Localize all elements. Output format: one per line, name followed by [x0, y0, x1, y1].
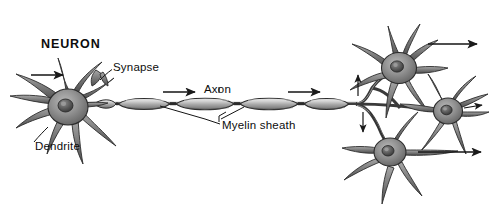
label-axon: Axon	[204, 84, 231, 96]
node-of-ranvier	[298, 102, 304, 105]
label-dendrite: Dendrite	[35, 141, 80, 153]
node-of-ranvier	[234, 102, 240, 105]
label-synapse: Synapse	[113, 62, 159, 74]
nucleolus	[443, 107, 447, 110]
nucleolus	[61, 102, 66, 106]
nucleolus	[384, 148, 388, 152]
nucleus	[58, 99, 73, 112]
page-title: NEURON	[41, 38, 101, 51]
nucleus	[391, 61, 404, 72]
nucleolus	[393, 63, 397, 67]
myelin-segments	[94, 98, 349, 109]
neuron-diagram-canvas	[0, 0, 491, 214]
node-of-ranvier	[170, 102, 176, 105]
neuron-diagram-figure: NEURON Synapse Dendrite Axon Myelin shea…	[0, 0, 491, 214]
label-myelin-sheath: Myelin sheath	[222, 120, 296, 132]
node-of-ranvier	[116, 102, 119, 105]
nucleus	[382, 146, 394, 156]
axon-group	[86, 98, 358, 109]
nucleus	[441, 105, 452, 115]
